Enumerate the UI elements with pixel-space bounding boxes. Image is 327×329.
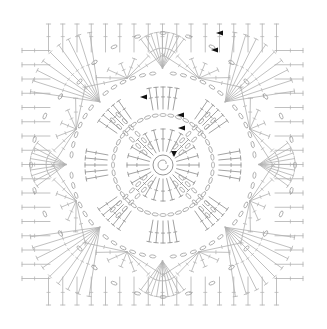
chain-stitch: [112, 162, 115, 168]
round-5-fan-stitch: [163, 252, 199, 275]
round-5-fan-stitch: [250, 201, 251, 232]
border-fan-stitch: [225, 227, 282, 268]
round-5-fan-stitch: [96, 252, 127, 253]
stitch-top-bar: [170, 130, 174, 131]
round-1-stitch: [145, 134, 156, 153]
round-1-stitch: [167, 179, 173, 200]
round-1-stitch: [154, 130, 160, 151]
stitch-tick: [174, 98, 177, 99]
chain-stitch: [122, 193, 129, 200]
round-3-stitch: [86, 151, 108, 155]
stitch-top-bar: [42, 59, 45, 63]
stitch-top-bar: [30, 168, 31, 172]
chain-stitch: [147, 143, 154, 150]
chain-stitch: [184, 143, 191, 150]
chain-stitch: [120, 245, 127, 250]
round-5-fan-stitch: [127, 59, 134, 78]
chain-stitch: [208, 240, 215, 246]
round-3-stitch: [195, 101, 208, 119]
round-3-stitch: [173, 220, 177, 242]
stitch-tick: [167, 49, 170, 50]
chain-stitch: [91, 59, 98, 65]
round-1-stitch: [128, 169, 149, 175]
stitch-tick: [174, 232, 177, 233]
round-3-stitch: [168, 87, 170, 109]
chain-stitch: [189, 202, 196, 208]
stitch-top-bar: [154, 296, 158, 297]
stitch-top-bar: [86, 177, 87, 181]
chain-stitch: [77, 122, 82, 129]
stitch-top-bar: [117, 228, 121, 231]
chain-stitch: [70, 151, 74, 158]
chain-stitch: [208, 44, 215, 49]
start-marker-icon: [171, 151, 177, 157]
chain-stitch: [149, 255, 156, 259]
stitch-top-bar: [286, 141, 289, 145]
chain-stitch: [251, 141, 255, 148]
stitch-top-bar: [139, 38, 143, 41]
chain-stitch: [129, 136, 136, 143]
chain-stitch: [182, 207, 189, 213]
chain-stitch: [71, 141, 75, 148]
stitch-tick: [158, 48, 161, 49]
round-3-stitch: [85, 170, 107, 172]
stitch-top-bar: [36, 141, 39, 145]
round-3-stitch: [85, 158, 107, 160]
stitch-top-bar: [264, 43, 268, 46]
stitch-top-bar: [294, 156, 295, 160]
stitch-tick: [235, 263, 238, 264]
round-3-stitch: [209, 121, 227, 134]
chain-stitch: [70, 172, 74, 179]
round-5-fan-stitch: [241, 201, 250, 243]
chain-stitch: [137, 207, 144, 213]
stitch-top-bar: [287, 184, 290, 188]
round-1-stitch: [145, 177, 156, 196]
round-3-stitch: [156, 87, 158, 109]
chain-stitch: [116, 139, 122, 146]
stitch-top-bar: [239, 177, 240, 181]
chain-stitch: [195, 126, 202, 133]
round-1-stitch: [132, 147, 151, 158]
chain-stitch: [130, 202, 137, 208]
border-fan-stitch: [163, 261, 184, 290]
stitch-tick: [149, 98, 152, 99]
round-1-stitch: [175, 147, 194, 158]
start-marker-icon: [140, 95, 147, 100]
round-3-stitch: [103, 201, 120, 215]
stitch-top-bar: [98, 119, 101, 123]
chain-stitch: [172, 180, 179, 187]
chain-stitch: [178, 174, 185, 181]
chain-stitch: [191, 187, 198, 194]
round-3-stitch: [119, 211, 132, 229]
stitch-tick: [277, 169, 278, 172]
stitch-tick: [261, 237, 262, 240]
stitch-top-bar: [197, 172, 198, 176]
stitch-tick: [278, 160, 279, 163]
chain-stitch: [172, 143, 179, 150]
chain-stitch: [185, 193, 192, 200]
round-5-fan-stitch: [250, 165, 273, 201]
chain-stitch: [208, 281, 215, 286]
chain-stitch: [217, 234, 224, 240]
border-fan-stitch: [59, 45, 100, 102]
round-3-stitch: [119, 101, 132, 119]
chain-stitch: [208, 84, 215, 90]
round-3-stitch: [209, 197, 227, 210]
chain-stitch: [112, 169, 116, 176]
round-5-fan-stitch: [76, 98, 77, 129]
chain-stitch: [76, 245, 83, 252]
round-5-fan-stitch: [96, 78, 127, 79]
chain-stitch: [42, 113, 47, 120]
border-fan-stitch: [225, 80, 292, 102]
round-5-fan-stitch: [192, 252, 199, 271]
round-1-stitch: [175, 172, 194, 183]
stitch-tick: [63, 237, 64, 240]
stitch-tick: [168, 139, 171, 140]
chain-stitch: [243, 78, 250, 85]
chain-stitch: [170, 72, 177, 76]
stitch-top-bar: [30, 235, 31, 239]
stitch-tick: [230, 151, 231, 154]
stitch-tick: [96, 176, 97, 179]
chain-stitch: [144, 115, 151, 120]
stitch-top-bar: [152, 199, 156, 200]
